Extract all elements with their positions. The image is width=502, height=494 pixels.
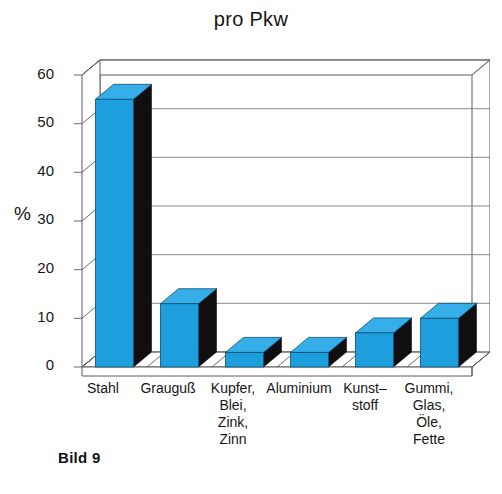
bar-0	[96, 84, 152, 367]
x-category-label-gummi: Gummi, Glas, Öle, Fette	[392, 380, 466, 448]
bar-front-face	[356, 333, 394, 367]
chart-title: pro Pkw	[0, 8, 502, 31]
y-tick-label: 20	[24, 259, 54, 276]
y-tick-label: 0	[24, 356, 54, 373]
x-category-label-stahl: Stahl	[66, 380, 140, 397]
figure-caption: Bild 9	[58, 449, 101, 466]
y-tick-label: 40	[24, 162, 54, 179]
y-tick-label: 30	[24, 210, 54, 227]
bar-1	[161, 289, 217, 367]
bar-front-face	[161, 304, 199, 367]
x-category-label-graugu: Grauguß	[131, 380, 205, 397]
y-tick-label: 50	[24, 113, 54, 130]
y-tick-label: 60	[24, 65, 54, 82]
bar-front-face	[421, 318, 459, 367]
bar-5	[421, 303, 477, 367]
x-category-label-kunststoff: Kunst– stoff	[328, 380, 402, 414]
y-tick-label: 10	[24, 308, 54, 325]
chart-figure: pro Pkw %	[0, 0, 502, 494]
bar-front-face	[291, 352, 329, 367]
plot-area: 60 50 40 30 20 10 0 Stahl Grauguß Kupfer…	[60, 40, 490, 385]
bar-front-face	[226, 352, 264, 367]
bar-front-face	[96, 99, 134, 367]
bar-side-face	[134, 84, 152, 367]
chart-svg	[60, 40, 490, 385]
